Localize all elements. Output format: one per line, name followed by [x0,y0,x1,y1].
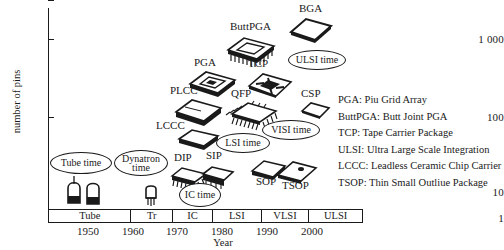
package-label-tcp: TCP [248,58,268,69]
package-label-csp: CSP [301,88,321,99]
legend-line-lccc: LCCC: Leadless Ceramic Chip Carrier [338,158,504,175]
era-cell-lsi: LSI [213,210,262,222]
era-cell-ic: IC [173,210,213,222]
era-cell-vlsi: VLSI [262,210,310,222]
annotation-bubble-ic-time: IC time [179,183,221,207]
csp-package-icon [300,100,332,122]
tsop-package-icon [274,159,320,187]
package-label-bga: BGA [299,3,322,14]
annotation-bubble-dynatron-time: Dynatron time [114,150,168,176]
x-axis-title: Year [203,237,243,248]
annotation-bubble-visi-time: VISI time [262,120,320,140]
vacuum-tube-icon-2 [83,177,103,209]
x-tick-label-1950: 1950 [71,226,105,237]
y-tick-mark-100 [48,117,54,118]
package-label-buttpga: ButtPGA [230,21,271,32]
x-tick-label-1960: 1960 [116,226,150,237]
pin-count-vs-year-chart: number of pins 1 000 100 10 1 Tube Tr IC… [0,0,504,250]
annotation-bubble-ulsi-time: ULSI time [288,50,346,70]
y-tick-mark-10 [48,0,54,1]
x-tick-label-1980: 1980 [205,226,239,237]
era-cell-ulsi: ULSI [309,210,362,222]
package-label-pga: PGA [194,57,216,68]
vacuum-tube-icon [64,174,84,208]
package-label-sip: SIP [206,150,222,161]
x-tick-label-1970: 1970 [160,226,194,237]
legend-line-tsop: TSOP: Thin Small Outliue Package [338,175,504,192]
y-tick-label-1000: 1 000 [458,34,504,45]
tcp-package-icon [246,71,294,101]
annotation-bubble-tube-time: Tube time [50,152,112,174]
legend-line-ulsi: ULSI: Ultra Large Scale Integration [338,142,504,159]
legend-line-tcp: TCP: Tape Carrier Package [338,125,504,142]
legend-line-buttpga: ButtPGA: Butt Joint PGA [338,109,504,126]
abbreviation-legend: PGA: Piu Grid Array ButtPGA: Butt Joint … [338,92,504,191]
era-cell-tr: Tr [131,210,173,222]
y-axis-title: number of pins [11,54,22,150]
package-label-qfp: QFP [231,88,251,99]
package-label-plcc: PLCC [170,85,198,96]
x-tick-label-1990: 1990 [250,226,284,237]
annotation-bubble-lsi-time: LSI time [216,133,270,153]
legend-line-pga: PGA: Piu Grid Array [338,92,504,109]
bga-package-icon [288,16,334,44]
y-tick-label-1: 1 [458,213,504,224]
transistor-icon [141,183,161,209]
era-cell-tube: Tube [49,210,131,222]
y-tick-mark-1000 [48,39,54,40]
package-label-dip: DIP [174,152,192,163]
era-bar: Tube Tr IC LSI VLSI ULSI [48,209,363,223]
x-tick-label-2000: 2000 [295,226,329,237]
